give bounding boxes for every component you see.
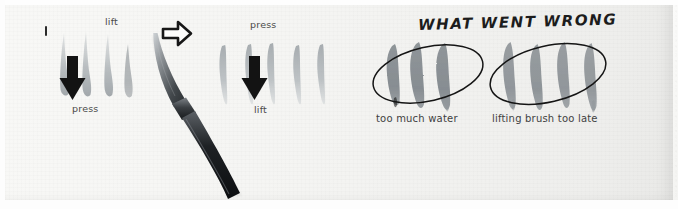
critique-caption-2: lifting brush too late (492, 113, 598, 124)
stroke-group-step2 (219, 43, 325, 104)
photograph-canvas: 1 lift press press lift WHAT WENT WRONG … (0, 0, 678, 209)
stroke-group-too-much-water (387, 42, 451, 111)
critique-caption-1: too much water (376, 113, 458, 124)
step2-top-label: press (250, 19, 276, 30)
critique-circle-1 (367, 35, 488, 113)
step1-bottom-label: press (72, 103, 98, 114)
step1-top-label: lift (105, 16, 118, 27)
paintbrush-object (152, 33, 242, 199)
arrow-right-outline-icon (163, 22, 191, 45)
step2-bottom-label: lift (254, 104, 267, 115)
brush-strokes-layer (0, 0, 678, 209)
